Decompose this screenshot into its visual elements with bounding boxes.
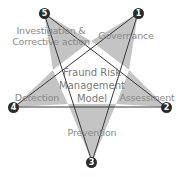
label-detection: Detection [12, 92, 62, 103]
label-investigation-line2: Corrective action [8, 36, 94, 47]
badge-5: 5 [39, 8, 50, 19]
fraud-risk-pentagram-diagram: Investigation & Corrective action Govern… [0, 0, 180, 177]
badge-1: 1 [133, 8, 144, 19]
badge-3: 3 [86, 157, 97, 168]
center-title-line3: Model [58, 92, 126, 105]
badge-4: 4 [8, 102, 19, 113]
label-prevention: Prevention [62, 127, 122, 138]
center-title-line2: Management [58, 79, 126, 92]
center-title: Fraund Risk Management Model [58, 66, 126, 105]
badge-2: 2 [161, 102, 172, 113]
center-title-line1: Fraund Risk [58, 66, 126, 79]
label-investigation-line1: Investigation & [8, 25, 94, 36]
label-governance: Governance [96, 30, 156, 41]
label-investigation: Investigation & Corrective action [8, 25, 94, 47]
